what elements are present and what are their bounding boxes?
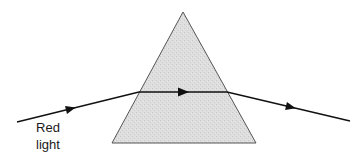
emergent-ray-arrow-icon	[285, 102, 297, 112]
red-light-label-line2: light	[28, 136, 68, 153]
red-light-label-line1: Red	[28, 119, 68, 136]
prism-triangle	[112, 12, 256, 143]
incident-ray	[17, 92, 139, 122]
incident-ray-arrow-icon	[65, 104, 77, 114]
